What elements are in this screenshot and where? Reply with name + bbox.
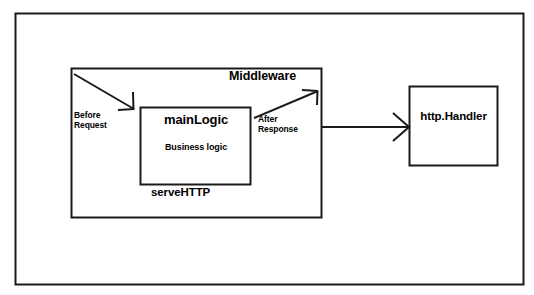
diagram-canvas: Before Request After Response Middleware…: [0, 0, 534, 295]
mainlogic-label: mainLogic: [0, 113, 392, 127]
business-logic-label: Business logic: [0, 143, 392, 153]
httphandler-box[interactable]: [410, 87, 498, 166]
servehttp-label: serveHTTP: [151, 186, 210, 198]
middleware-label: Middleware: [229, 70, 296, 84]
http-handler-label: http.Handler: [409, 110, 498, 122]
before-request-arrow: [74, 74, 134, 110]
